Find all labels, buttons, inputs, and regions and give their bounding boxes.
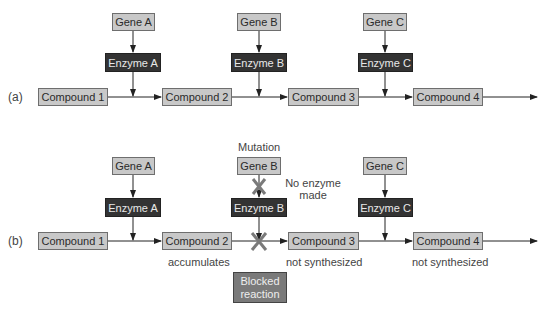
blocked-reaction-box: Blocked reaction	[233, 272, 287, 303]
panel-b-enzyme-c: Enzyme C	[358, 198, 413, 217]
compound-3-note: not synthesized	[286, 256, 362, 268]
panel-b-enzyme-a: Enzyme A	[105, 198, 161, 217]
no-enzyme-line2: made	[299, 189, 327, 201]
compound-2-note: accumulates	[168, 256, 230, 268]
panel-a-gene-a: Gene A	[112, 13, 155, 31]
mutation-label: Mutation	[238, 141, 280, 153]
panel-a-compound-4: Compound 4	[413, 88, 483, 106]
panel-a-gene-c: Gene C	[363, 13, 407, 31]
panel-a-enzyme-a: Enzyme A	[105, 53, 161, 72]
panel-b-compound-1: Compound 1	[38, 232, 108, 250]
panel-b-gene-c: Gene C	[363, 157, 407, 175]
panel-b-gene-a: Gene A	[112, 157, 155, 175]
panel-a-compound-3: Compound 3	[288, 88, 359, 106]
panel-a-enzyme-b: Enzyme B	[231, 53, 287, 72]
compound-4-note: not synthesized	[412, 256, 488, 268]
panel-a-compound-2: Compound 2	[162, 88, 232, 106]
panel-b-compound-4: Compound 4	[413, 232, 483, 250]
panel-b-label: (b)	[8, 234, 23, 248]
no-enzyme-line1: No enzyme	[285, 177, 341, 189]
panel-a-label: (a)	[8, 90, 23, 104]
blocked-line2: reaction	[240, 288, 279, 301]
no-enzyme-made-label: No enzyme made	[283, 177, 343, 201]
blocked-line1: Blocked	[240, 275, 279, 288]
panel-b-enzyme-b: Enzyme B	[231, 198, 287, 217]
panel-a-enzyme-c: Enzyme C	[358, 53, 413, 72]
panel-a-compound-1: Compound 1	[38, 88, 108, 106]
panel-b-compound-3: Compound 3	[288, 232, 359, 250]
panel-b-compound-2: Compound 2	[162, 232, 232, 250]
panel-a-gene-b: Gene B	[237, 13, 281, 31]
panel-b-gene-b: Gene B	[237, 157, 281, 175]
